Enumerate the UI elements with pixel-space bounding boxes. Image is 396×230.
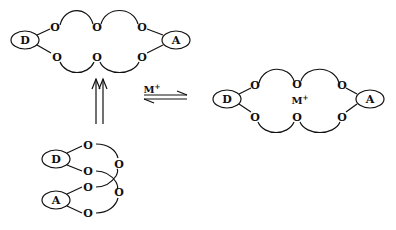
oxygen-label: O bbox=[292, 111, 302, 124]
structure-folded-chain: D A O O O O O O bbox=[42, 139, 124, 220]
oxygen-label: O bbox=[250, 111, 260, 124]
oxygen-label: O bbox=[52, 51, 62, 64]
donor-label: D bbox=[222, 93, 232, 106]
oxygen-label: O bbox=[50, 21, 60, 34]
oxygen-label: O bbox=[83, 181, 93, 194]
donor-label: D bbox=[20, 34, 30, 47]
equilibrium-arrow: M+ bbox=[144, 82, 187, 103]
diagram-canvas: D A O O O O O O M+ D A bbox=[0, 0, 396, 230]
double-up-arrow bbox=[92, 79, 107, 124]
acceptor-label: A bbox=[171, 34, 181, 47]
oxygen-label: O bbox=[92, 51, 102, 64]
cation-label: M+ bbox=[144, 82, 161, 95]
oxygen-label: O bbox=[83, 207, 93, 220]
acceptor-label: A bbox=[51, 194, 61, 207]
donor-label: D bbox=[51, 153, 61, 166]
oxygen-label: O bbox=[83, 165, 93, 178]
oxygen-label: O bbox=[83, 139, 93, 152]
oxygen-label: O bbox=[292, 78, 302, 91]
oxygen-label: O bbox=[337, 111, 347, 124]
structure-complexed: D A O O O O O O M+ bbox=[213, 69, 384, 132]
oxygen-label: O bbox=[137, 51, 147, 64]
bound-cation-label: M+ bbox=[292, 93, 309, 106]
oxygen-label: O bbox=[114, 158, 124, 171]
oxygen-label: O bbox=[250, 79, 260, 92]
oxygen-label: O bbox=[114, 186, 124, 199]
oxygen-label: O bbox=[92, 21, 102, 34]
oxygen-label: O bbox=[337, 79, 347, 92]
acceptor-label: A bbox=[365, 93, 375, 106]
oxygen-label: O bbox=[137, 21, 147, 34]
structure-open-cyclic: D A O O O O O O bbox=[11, 11, 190, 73]
